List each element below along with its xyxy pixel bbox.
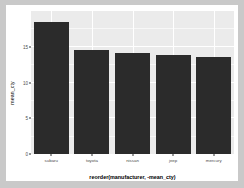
- x-tick-mark: [91, 154, 92, 156]
- x-tick-mark: [213, 154, 214, 156]
- chart-figure: mean_cty 051015 subarutoyotanissanjeepme…: [6, 5, 238, 181]
- y-tick-label: 0: [25, 152, 28, 157]
- bar: [34, 22, 69, 154]
- y-tick-label: 15: [23, 44, 28, 49]
- x-tick-label: mercury: [206, 158, 222, 163]
- bar: [115, 53, 150, 154]
- x-tick-label: nissan: [126, 158, 139, 163]
- x-tick-mark: [132, 154, 133, 156]
- x-tick-label: jeep: [169, 158, 177, 163]
- bar: [156, 55, 191, 154]
- x-tick-label: toyota: [86, 158, 98, 163]
- bar: [74, 50, 109, 154]
- bar: [196, 57, 231, 154]
- x-axis-title: reorder(manufacturer, -mean_cty): [31, 174, 234, 180]
- x-tick-mark: [51, 154, 52, 156]
- plot-panel: [31, 11, 234, 154]
- x-axis-tick-labels: subarutoyotanissanjeepmercury: [31, 154, 234, 167]
- y-tick-label: 10: [23, 80, 28, 85]
- x-tick-label: subaru: [45, 158, 58, 163]
- y-tick-label: 5: [25, 116, 28, 121]
- y-axis-title-text: mean_cty: [9, 81, 15, 104]
- y-axis-tick-labels: 051015: [16, 5, 31, 181]
- x-tick-mark: [173, 154, 174, 156]
